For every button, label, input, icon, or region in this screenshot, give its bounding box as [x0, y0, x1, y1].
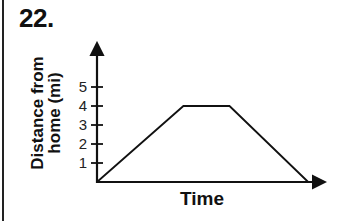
- y-axis-ticks: 12345: [79, 78, 103, 171]
- y-tick-label: 3: [79, 116, 87, 133]
- distance-line: [97, 106, 308, 182]
- y-tick-label: 1: [79, 154, 87, 171]
- y-tick-label: 4: [79, 97, 87, 114]
- y-tick-label: 2: [79, 135, 87, 152]
- chart-plot: 12345: [0, 0, 345, 221]
- y-tick-label: 5: [79, 78, 87, 95]
